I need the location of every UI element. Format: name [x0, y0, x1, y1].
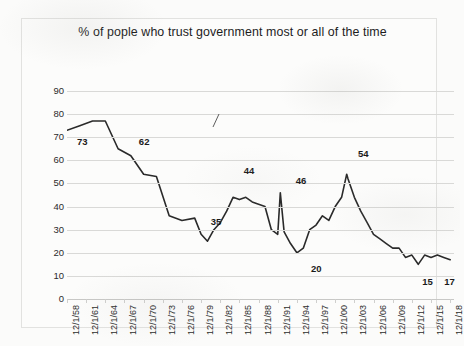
x-tick-label-12/1/73: 12/1/73 [167, 305, 177, 335]
x-tick-label-12/1/12: 12/1/12 [416, 305, 426, 335]
x-tick-label-12/1/91: 12/1/91 [282, 305, 292, 335]
x-tick-label-12/1/85: 12/1/85 [243, 305, 253, 335]
x-tick-12/1/82 [220, 299, 221, 303]
x-tick-12/1/70 [144, 299, 145, 303]
gridline-80 [67, 114, 454, 115]
gridline-90 [67, 91, 454, 92]
y-tick-label-0: 0 [38, 293, 64, 304]
data-callout-73: 73 [77, 136, 88, 147]
data-callout-17: 17 [444, 276, 455, 287]
y-tick-label-30: 30 [38, 224, 64, 235]
x-tick-12/1/18 [450, 299, 451, 303]
y-tick-label-80: 80 [38, 108, 64, 119]
y-tick-label-70: 70 [38, 131, 64, 142]
x-tick-label-12/1/70: 12/1/70 [148, 305, 158, 335]
data-callout-44: 44 [244, 165, 255, 176]
data-callout-54: 54 [358, 148, 369, 159]
x-tick-12/1/61 [86, 299, 87, 303]
x-tick-label-12/1/58: 12/1/58 [71, 305, 81, 335]
gridline-50 [67, 183, 454, 184]
x-tick-12/1/88 [259, 299, 260, 303]
x-tick-12/1/79 [201, 299, 202, 303]
y-tick-label-20: 20 [38, 247, 64, 258]
y-axis-labels: 9080706050403020100 [36, 91, 66, 299]
gridline-10 [67, 276, 454, 277]
x-tick-label-12/1/64: 12/1/64 [109, 305, 119, 335]
y-tick-label-10: 10 [38, 270, 64, 281]
x-tick-label-12/1/09: 12/1/09 [397, 305, 407, 335]
x-tick-12/1/76 [182, 299, 183, 303]
x-tick-12/1/91 [278, 299, 279, 303]
trust-line-series [67, 91, 454, 299]
x-tick-12/1/09 [393, 299, 394, 303]
gridline-60 [67, 160, 454, 161]
x-tick-label-12/1/61: 12/1/61 [90, 305, 100, 335]
x-tick-12/1/58 [67, 299, 68, 303]
x-tick-12/1/73 [163, 299, 164, 303]
x-tick-12/1/03 [354, 299, 355, 303]
x-tick-label-12/1/03: 12/1/03 [358, 305, 368, 335]
x-tick-label-12/1/18: 12/1/18 [454, 305, 464, 335]
x-tick-12/1/85 [239, 299, 240, 303]
y-tick-label-60: 60 [38, 154, 64, 165]
x-tick-12/1/67 [124, 299, 125, 303]
x-tick-label-12/1/00: 12/1/00 [339, 305, 349, 335]
x-tick-12/1/97 [316, 299, 317, 303]
x-tick-label-12/1/67: 12/1/67 [128, 305, 138, 335]
x-tick-label-12/1/97: 12/1/97 [320, 305, 330, 335]
data-callout-35: 35 [211, 216, 222, 227]
gridline-70 [67, 137, 454, 138]
gridline-20 [67, 253, 454, 254]
chart-title: % of pople who trust government most or … [60, 24, 405, 41]
x-tick-12/1/94 [297, 299, 298, 303]
x-tick-12/1/15 [431, 299, 432, 303]
data-callout-20: 20 [311, 263, 322, 274]
plot-area [67, 91, 454, 299]
x-tick-label-12/1/94: 12/1/94 [301, 305, 311, 335]
x-tick-12/1/06 [374, 299, 375, 303]
x-tick-12/1/00 [335, 299, 336, 303]
y-tick-label-50: 50 [38, 177, 64, 188]
x-tick-12/1/64 [105, 299, 106, 303]
gridline-40 [67, 207, 454, 208]
data-callout-62: 62 [139, 136, 150, 147]
x-tick-label-12/1/06: 12/1/06 [378, 305, 388, 335]
data-callout-15: 15 [422, 276, 433, 287]
chart-frame: % of pople who trust government most or … [21, 18, 437, 328]
x-tick-label-12/1/82: 12/1/82 [224, 305, 234, 335]
y-tick-label-90: 90 [38, 85, 64, 96]
x-tick-12/1/12 [412, 299, 413, 303]
x-tick-label-12/1/15: 12/1/15 [435, 305, 445, 335]
x-tick-label-12/1/76: 12/1/76 [186, 305, 196, 335]
gridline-30 [67, 230, 454, 231]
x-tick-label-12/1/88: 12/1/88 [263, 305, 273, 335]
y-tick-label-40: 40 [38, 201, 64, 212]
x-tick-label-12/1/79: 12/1/79 [205, 305, 215, 335]
data-callout-46: 46 [296, 175, 307, 186]
